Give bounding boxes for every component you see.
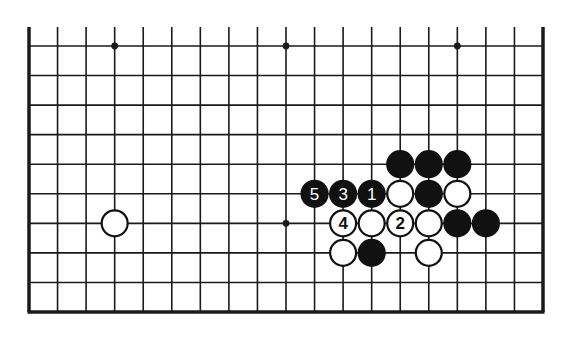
black-stone: 1 bbox=[359, 181, 385, 207]
black-stone bbox=[416, 151, 442, 177]
black-stone: 3 bbox=[330, 181, 356, 207]
move-number-label: 3 bbox=[338, 185, 347, 204]
black-stone bbox=[444, 210, 470, 236]
white-stone: 2 bbox=[387, 210, 413, 236]
stone-circle bbox=[359, 240, 385, 266]
white-stone bbox=[387, 181, 413, 207]
stones-layer: 53142 bbox=[102, 151, 499, 266]
move-number-label: 4 bbox=[338, 214, 348, 233]
move-number-label: 5 bbox=[310, 185, 319, 204]
star-point-icon bbox=[454, 43, 461, 50]
move-number-label: 1 bbox=[367, 185, 376, 204]
black-stone bbox=[444, 151, 470, 177]
stone-circle bbox=[330, 240, 356, 266]
white-stone bbox=[416, 210, 442, 236]
move-number-label: 2 bbox=[395, 214, 404, 233]
stone-circle bbox=[444, 210, 470, 236]
black-stone bbox=[473, 210, 499, 236]
stone-circle bbox=[416, 181, 442, 207]
white-stone bbox=[416, 240, 442, 266]
white-stone bbox=[359, 210, 385, 236]
black-stone bbox=[416, 181, 442, 207]
star-point-icon bbox=[283, 43, 290, 50]
white-stone bbox=[444, 181, 470, 207]
black-stone bbox=[359, 240, 385, 266]
stone-circle bbox=[416, 210, 442, 236]
black-stone bbox=[387, 151, 413, 177]
star-point-icon bbox=[283, 220, 290, 227]
stone-circle bbox=[444, 181, 470, 207]
stone-circle bbox=[359, 210, 385, 236]
stone-circle bbox=[416, 151, 442, 177]
stone-circle bbox=[387, 151, 413, 177]
white-stone bbox=[102, 210, 128, 236]
stone-circle bbox=[102, 210, 128, 236]
stone-circle bbox=[416, 240, 442, 266]
stone-circle bbox=[473, 210, 499, 236]
stone-circle bbox=[444, 151, 470, 177]
star-point-icon bbox=[111, 43, 118, 50]
white-stone bbox=[330, 240, 356, 266]
stone-circle bbox=[387, 181, 413, 207]
white-stone: 4 bbox=[330, 210, 356, 236]
go-board-diagram: 53142 bbox=[0, 0, 577, 344]
black-stone: 5 bbox=[302, 181, 328, 207]
